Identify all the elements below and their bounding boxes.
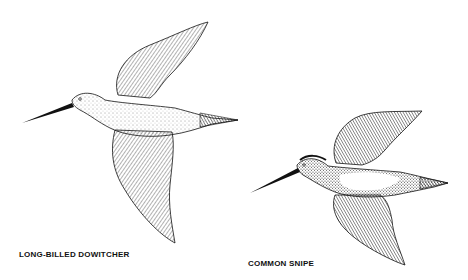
dowitcher-eye xyxy=(79,98,82,101)
dowitcher-label: LONG-BILLED DOWITCHER xyxy=(19,250,129,259)
dowitcher-upper-wing xyxy=(117,22,208,98)
dowitcher-lower-wing xyxy=(112,130,175,243)
snipe-label: COMMON SNIPE xyxy=(248,259,314,268)
snipe-upper-wing xyxy=(334,111,422,165)
snipe-body xyxy=(297,156,448,197)
dowitcher-body xyxy=(72,93,238,136)
snipe-eye xyxy=(303,164,305,166)
snipe-lower-wing xyxy=(334,195,405,265)
dowitcher-bill xyxy=(22,103,74,123)
snipe-bill xyxy=(250,168,300,193)
long-billed-dowitcher-drawing xyxy=(0,0,468,280)
